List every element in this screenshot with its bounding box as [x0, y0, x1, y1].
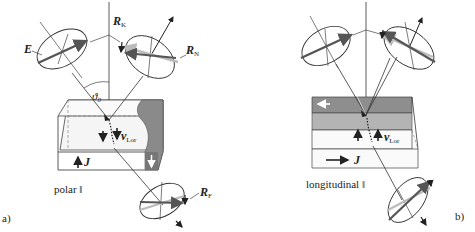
sample-box	[58, 100, 163, 170]
e-field-label: E	[23, 42, 32, 56]
panel-b-longitudinal: vLor J longitudinal ‖ b)	[295, 2, 465, 230]
angle-label: ϑ0	[92, 90, 101, 104]
transmitted-propagation-arrow-icon-b	[421, 217, 426, 225]
transmitted-polarization-ellipse-b	[380, 170, 436, 229]
sample-box-b	[312, 97, 418, 168]
normal-label: RN	[185, 43, 199, 58]
incident-polarization-ellipse	[30, 21, 94, 78]
panel-a-tag: a)	[2, 212, 11, 225]
e-field-arrow-icon	[38, 41, 86, 63]
polar-caption: polar ‖	[54, 183, 82, 195]
longitudinal-caption: longitudinal ‖	[306, 178, 365, 190]
transmitted-propagation-arrow-icon	[176, 221, 182, 227]
faraday-label: RF	[199, 185, 212, 200]
panel-b-tag: b)	[455, 210, 465, 223]
kerr-label: RK	[112, 14, 126, 29]
current-label-b: J	[353, 153, 361, 167]
reflected-polarization-ellipse-b	[376, 18, 441, 78]
incident-polarization-ellipse-b	[295, 16, 357, 74]
reflected-polarization-ellipse	[118, 17, 183, 87]
magneto-optic-kerr-diagram: ϑ0 E RK RN vLor J pol	[0, 0, 475, 232]
panel-a-polar: ϑ0 E RK RN vLor J pol	[2, 2, 212, 227]
transmitted-polarization-ellipse	[134, 176, 191, 227]
current-label: J	[83, 155, 91, 169]
